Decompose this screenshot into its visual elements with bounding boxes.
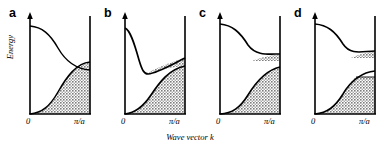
band-structure-figure: a 0 π/a Energy b xyxy=(0,0,380,153)
y-axis-title: Energy xyxy=(5,21,15,73)
x-tick-zero-a: 0 xyxy=(26,117,30,126)
x-tick-pi-a: π/a xyxy=(74,117,85,126)
panel-b: b 0 π/a xyxy=(95,0,190,153)
x-tick-pi-b: π/a xyxy=(169,117,180,126)
x-tick-zero-d: 0 xyxy=(311,117,315,126)
conduction-band-curve-c xyxy=(220,24,280,54)
y-axis-arrow-c xyxy=(217,12,223,19)
panel-a: a 0 π/a Energy xyxy=(0,0,95,153)
y-axis-arrow-a xyxy=(27,12,33,19)
panel-c-plot xyxy=(190,0,285,153)
panel-b-plot xyxy=(95,0,190,153)
conduction-band-curve-a xyxy=(30,26,90,70)
x-tick-zero-b: 0 xyxy=(121,117,125,126)
conduction-band-curve-d xyxy=(315,24,375,52)
x-tick-pi-d: π/a xyxy=(359,117,370,126)
conduction-band-curve-b xyxy=(125,28,185,74)
y-axis-arrow-d xyxy=(312,12,318,19)
y-axis-arrow-b xyxy=(122,12,128,19)
x-axis-title: Wave vector k xyxy=(0,132,380,142)
valence-band-fill-d xyxy=(315,77,375,114)
x-tick-pi-c: π/a xyxy=(264,117,275,126)
conduction-band-fill-c xyxy=(252,54,280,61)
panel-d-plot xyxy=(285,0,380,153)
x-tick-zero-c: 0 xyxy=(216,117,220,126)
panel-d: d 0 π/a xyxy=(285,0,380,153)
panel-c: c 0 π/a xyxy=(190,0,285,153)
